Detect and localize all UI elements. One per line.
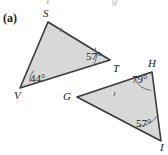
angle-label-h: 79°: [132, 74, 147, 85]
vertex-label-t: T: [113, 63, 119, 74]
angle-label-v: 44°: [30, 73, 45, 84]
triangle-ghi-shape: [77, 72, 161, 141]
angle-label-i: 57°: [136, 118, 151, 129]
geometry-figure: I g (a) S V T 44° 57° H G I 79° 57°: [0, 0, 168, 155]
vertex-label-g: G: [63, 91, 71, 102]
vertex-label-v: V: [14, 90, 21, 101]
angle-label-t: 57°: [86, 51, 101, 62]
vertex-label-i: I: [160, 142, 164, 153]
part-label: (a): [3, 11, 17, 26]
vertex-label-s: S: [43, 8, 49, 19]
vertex-label-h: H: [148, 58, 156, 69]
